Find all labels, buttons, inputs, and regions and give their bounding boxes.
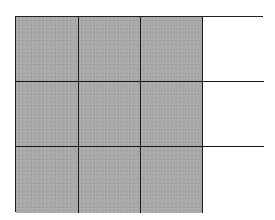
shaded-cell-r2c0 (16, 147, 79, 213)
shaded-cell-r0c2 (141, 17, 203, 82)
unshaded-cell-r2c3 (203, 147, 264, 213)
unshaded-cell-r0c3 (203, 17, 264, 82)
shaded-cell-r1c1 (79, 82, 141, 147)
shaded-cell-r0c0 (16, 17, 79, 82)
unshaded-cell-r1c3 (203, 82, 264, 147)
shaded-cell-r2c1 (79, 147, 141, 213)
shaded-cell-r2c2 (141, 147, 203, 213)
shaded-cell-r1c0 (16, 82, 79, 147)
fraction-grid (15, 16, 263, 212)
shaded-cell-r0c1 (79, 17, 141, 82)
shaded-cell-r1c2 (141, 82, 203, 147)
